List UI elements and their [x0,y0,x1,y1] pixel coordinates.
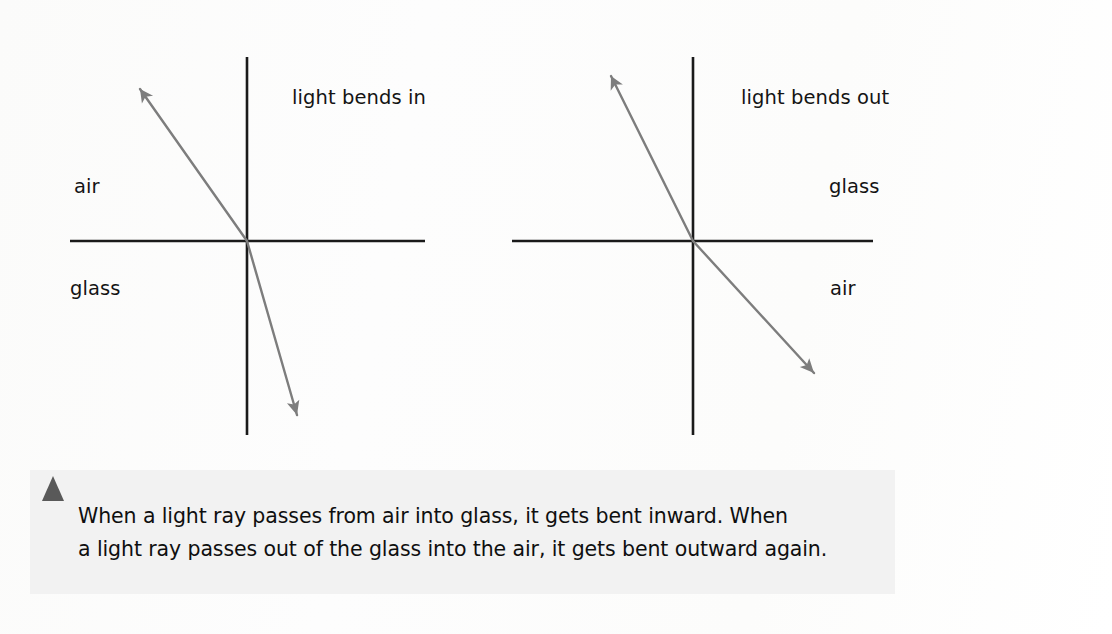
diagram-left-lower-medium-label: glass [70,277,121,300]
diagram-light-bends-out [512,57,873,435]
triangle-marker-icon [42,476,64,501]
incident-ray-left [140,89,247,241]
diagram-right-lower-medium-label: air [830,277,856,300]
caption-line-2: a light ray passes out of the glass into… [78,533,868,566]
refracted-ray-left [247,241,297,415]
caption-line-1: When a light ray passes from air into gl… [78,500,868,533]
diagram-right-upper-medium-label: glass [829,175,880,198]
figure-page: light bends in air glass light bends out… [0,0,1112,634]
diagram-right-title: light bends out [741,86,889,109]
caption-paragraph: When a light ray passes from air into gl… [78,500,868,566]
caption-box: When a light ray passes from air into gl… [30,470,895,594]
diagram-left-title: light bends in [292,86,426,109]
diagram-light-bends-in [70,57,425,435]
diagram-left-upper-medium-label: air [74,175,100,198]
incident-ray-right [611,76,693,241]
refracted-ray-right [693,241,814,373]
